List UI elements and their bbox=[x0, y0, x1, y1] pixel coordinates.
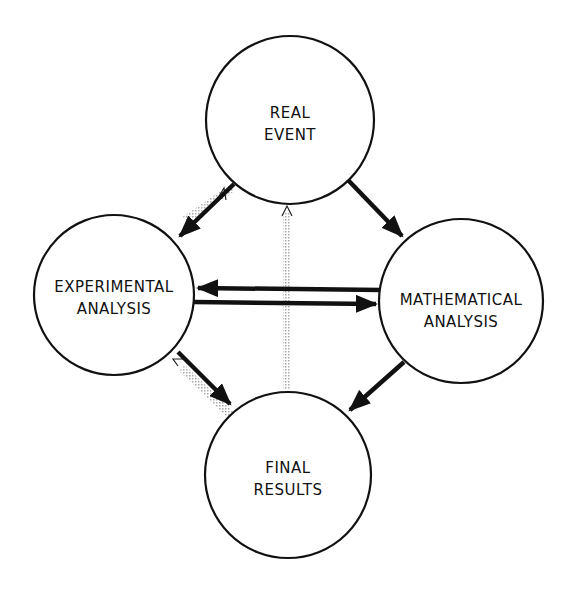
node-label-line1: REAL bbox=[270, 104, 311, 122]
node-label-line1: MATHEMATICAL bbox=[400, 291, 523, 309]
edge-math-to-final bbox=[350, 362, 404, 410]
node-label-line2: ANALYSIS bbox=[424, 313, 499, 331]
node-mathematical-analysis: MATHEMATICAL ANALYSIS bbox=[379, 219, 543, 383]
dotted-edge-final-to-exp bbox=[182, 368, 232, 416]
node-experimental-analysis: EXPERIMENTAL ANALYSIS bbox=[34, 215, 194, 375]
node-label-line1: EXPERIMENTAL bbox=[54, 278, 174, 296]
node-final-results: FINAL RESULTS bbox=[205, 392, 371, 558]
node-label-line2: ANALYSIS bbox=[77, 300, 152, 318]
edge-real-to-exp bbox=[180, 184, 234, 236]
open-arrowhead-icon bbox=[173, 359, 183, 366]
node-label-line2: EVENT bbox=[264, 126, 316, 144]
edge-math-to-exp bbox=[198, 288, 382, 290]
node-real-event: REAL EVENT bbox=[206, 36, 374, 204]
edge-real-to-math bbox=[348, 180, 402, 236]
edge-exp-to-final bbox=[178, 352, 230, 404]
flow-diagram: REAL EVENT EXPERIMENTAL ANALYSIS MATHEMA… bbox=[0, 0, 581, 593]
node-label-line1: FINAL bbox=[265, 459, 311, 477]
node-label-line2: RESULTS bbox=[254, 481, 323, 499]
edge-exp-to-math bbox=[194, 302, 376, 304]
